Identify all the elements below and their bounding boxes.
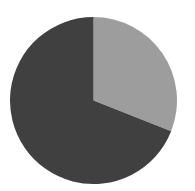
pie-slices bbox=[10, 17, 177, 184]
pie-chart bbox=[0, 0, 195, 191]
